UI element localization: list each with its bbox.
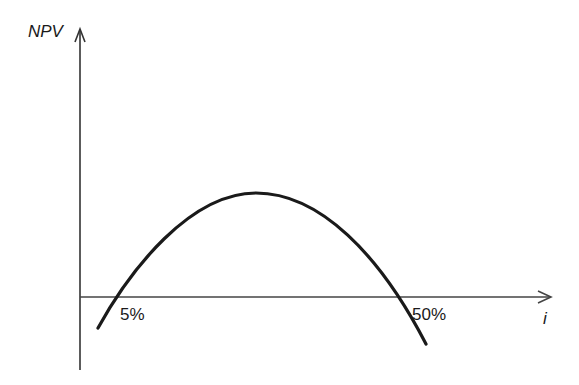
- y-axis: [75, 29, 85, 370]
- root-low-label: 5%: [120, 305, 145, 324]
- npv-chart: NPV i 5% 50%: [0, 0, 579, 385]
- x-axis-label: i: [543, 309, 548, 328]
- root-high-label: 50%: [412, 305, 446, 324]
- npv-curve: [98, 193, 426, 344]
- x-axis: [80, 291, 551, 303]
- y-axis-label: NPV: [28, 22, 65, 41]
